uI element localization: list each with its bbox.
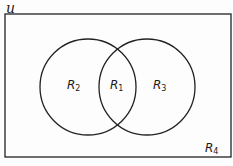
universe-label: u	[6, 0, 15, 16]
region-label-r4: R4	[205, 142, 218, 156]
region-label-r1: R1	[110, 79, 123, 93]
region-label-r3: R3	[153, 79, 166, 93]
region-label-r2: R2	[67, 79, 80, 93]
